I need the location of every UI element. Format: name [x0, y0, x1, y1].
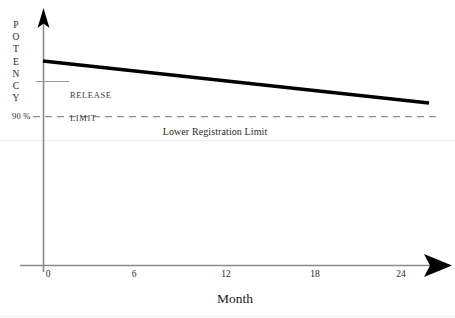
- x-tick-label-18: 18: [303, 269, 327, 279]
- release-limit-line-2: LIMIT: [70, 113, 112, 125]
- x-axis-title: Month: [0, 291, 455, 307]
- y-axis-title: P O T E N C Y: [8, 19, 24, 104]
- lower-registration-limit-caption: Lower Registration Limit: [0, 126, 430, 137]
- y-axis-title-letter: N: [8, 68, 24, 80]
- y-axis-title-letter: E: [8, 56, 24, 68]
- release-limit-line-1: RELEASE: [70, 90, 112, 102]
- x-tick-label-24: 24: [389, 269, 413, 279]
- y-axis-title-letter: T: [8, 43, 24, 55]
- y-axis-title-letter: Y: [8, 92, 24, 104]
- y-axis-title-letter: P: [8, 19, 24, 31]
- x-tick-label-6: 6: [122, 269, 146, 279]
- x-tick-label-0: 0: [36, 269, 60, 279]
- y-axis-tick-label-90pct: 90 %: [12, 111, 31, 121]
- y-axis-title-letter: C: [8, 80, 24, 92]
- potency-stability-chart: P O T E N C Y RELEASE LIMIT 90 % Lower R…: [0, 0, 455, 318]
- x-tick-label-12: 12: [214, 269, 238, 279]
- y-axis-title-letter: O: [8, 31, 24, 43]
